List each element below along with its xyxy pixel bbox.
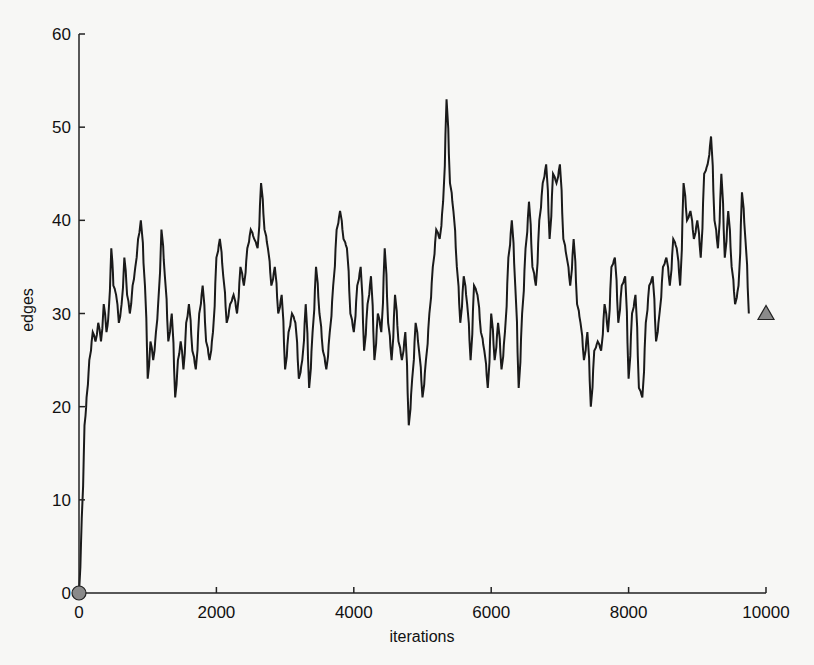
y-tick-label: 50 — [52, 118, 71, 137]
y-tick-label: 10 — [52, 491, 71, 510]
x-tick-label: 8000 — [610, 603, 648, 622]
y-tick-label: 0 — [62, 584, 71, 603]
edges-vs-iterations-chart: 0102030405060 0200040006000800010000 ite… — [0, 0, 814, 665]
y-tick-label: 30 — [52, 305, 71, 324]
start-circle-marker — [72, 586, 86, 600]
y-tick-label: 60 — [52, 25, 71, 44]
x-tick-label: 2000 — [197, 603, 235, 622]
x-tick-label: 0 — [74, 603, 83, 622]
edges-trace-line — [79, 99, 749, 593]
y-axis-label: edges — [19, 288, 36, 332]
end-triangle-marker — [758, 306, 774, 320]
x-axis-label: iterations — [390, 628, 455, 645]
x-tick-label: 4000 — [335, 603, 373, 622]
y-tick-label: 20 — [52, 398, 71, 417]
y-ticks: 0102030405060 — [52, 25, 85, 603]
y-tick-label: 40 — [52, 211, 71, 230]
x-tick-label: 10000 — [742, 603, 789, 622]
x-tick-label: 6000 — [472, 603, 510, 622]
plot-area — [79, 99, 749, 593]
